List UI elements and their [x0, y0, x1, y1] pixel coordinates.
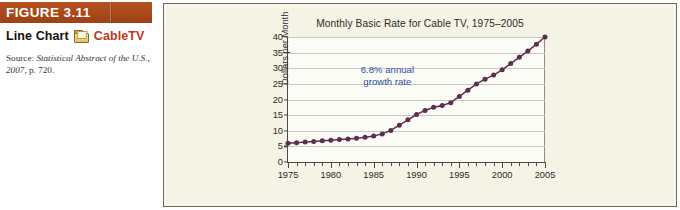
- data-point-marker: [328, 138, 333, 143]
- figure-screenshot: FIGURE 3.11 Line Chart CableTV Source: S…: [0, 0, 680, 210]
- chart-panel: Monthly Basic Rate for Cable TV, 1975–20…: [163, 3, 677, 207]
- y-tick-label: 30: [273, 63, 283, 73]
- x-tick-minor: [451, 162, 452, 166]
- x-tick-major: [374, 162, 375, 168]
- chart-kind-row: Line Chart CableTV: [6, 29, 145, 43]
- x-tick-minor: [314, 162, 315, 166]
- x-tick-minor: [511, 162, 512, 166]
- source-page: p. 720.: [27, 65, 55, 75]
- data-point-marker: [414, 112, 419, 117]
- data-point-marker: [303, 140, 308, 145]
- data-point-marker: [354, 136, 359, 141]
- x-tick-label: 2005: [535, 170, 556, 180]
- y-tick-label: 25: [273, 79, 283, 89]
- x-tick-minor: [357, 162, 358, 166]
- x-tick-minor: [322, 162, 323, 166]
- series-line: [288, 37, 545, 143]
- data-point-marker: [311, 139, 316, 144]
- data-point-marker: [440, 103, 445, 108]
- folder-icon[interactable]: [74, 30, 89, 42]
- figure-number-label: FIGURE 3.11: [6, 5, 91, 20]
- chart-kind-label: Line Chart: [6, 29, 69, 43]
- data-point-marker: [320, 138, 325, 143]
- y-tick-label: 20: [273, 95, 283, 105]
- data-point-marker: [405, 117, 410, 122]
- x-tick-major: [288, 162, 289, 168]
- x-tick-minor: [519, 162, 520, 166]
- data-point-marker: [423, 108, 428, 113]
- source-prefix: Source:: [6, 53, 36, 63]
- x-tick-label: 1975: [278, 170, 299, 180]
- x-tick-minor: [442, 162, 443, 166]
- x-tick-major: [459, 162, 460, 168]
- x-tick-minor: [536, 162, 537, 166]
- y-tick-label: 0: [278, 157, 283, 167]
- series-layer: [288, 37, 545, 162]
- data-point-marker: [380, 131, 385, 136]
- x-tick-major: [331, 162, 332, 168]
- x-tick-label: 1990: [406, 170, 427, 180]
- source-note: Source: Statistical Abstract of the U.S.…: [6, 53, 156, 76]
- x-tick-minor: [382, 162, 383, 166]
- y-tick-label: 10: [273, 126, 283, 136]
- x-tick-minor: [476, 162, 477, 166]
- x-tick-minor: [348, 162, 349, 166]
- data-point-marker: [500, 67, 505, 72]
- x-tick-minor: [305, 162, 306, 166]
- x-tick-label: 1995: [449, 170, 470, 180]
- bar-divider-shadow: [111, 2, 112, 23]
- data-point-marker: [345, 136, 350, 141]
- data-point-marker: [491, 73, 496, 78]
- x-tick-major: [502, 162, 503, 168]
- x-tick-label: 2000: [492, 170, 513, 180]
- x-tick-minor: [528, 162, 529, 166]
- caption-column: FIGURE 3.11 Line Chart CableTV Source: S…: [0, 0, 160, 210]
- figure-number-bar: FIGURE 3.11: [0, 2, 152, 23]
- annotation-line-2: growth rate: [361, 76, 414, 88]
- plot-area: Dollars per Month 0510152025303540197519…: [287, 37, 545, 162]
- data-point-marker: [508, 61, 513, 66]
- chart-title: Monthly Basic Rate for Cable TV, 1975–20…: [164, 18, 676, 29]
- data-point-marker: [371, 134, 376, 139]
- annotation-line-1: 6.8% annual: [361, 64, 414, 76]
- data-point-marker: [448, 100, 453, 105]
- y-tick-label: 35: [273, 48, 283, 58]
- data-point-marker: [431, 105, 436, 110]
- folder-icon-sheet: [76, 31, 87, 39]
- x-tick-label: 1985: [363, 170, 384, 180]
- x-tick-minor: [391, 162, 392, 166]
- x-tick-minor: [408, 162, 409, 166]
- x-tick-minor: [339, 162, 340, 166]
- data-point-marker: [534, 42, 539, 47]
- data-point-marker: [286, 141, 291, 146]
- data-point-marker: [483, 77, 488, 82]
- y-tick-label: 40: [273, 32, 283, 42]
- data-point-marker: [337, 137, 342, 142]
- data-point-marker: [388, 128, 393, 133]
- x-tick-minor: [297, 162, 298, 166]
- y-tick-label: 5: [278, 141, 283, 151]
- x-tick-minor: [434, 162, 435, 166]
- data-point-marker: [543, 35, 548, 40]
- x-tick-label: 1980: [320, 170, 341, 180]
- data-point-marker: [363, 135, 368, 140]
- data-point-marker: [517, 55, 522, 60]
- data-point-marker: [294, 140, 299, 145]
- x-tick-minor: [485, 162, 486, 166]
- x-tick-minor: [494, 162, 495, 166]
- data-point-marker: [457, 94, 462, 99]
- x-tick-major: [545, 162, 546, 168]
- x-tick-minor: [468, 162, 469, 166]
- data-point-marker: [474, 81, 479, 86]
- growth-rate-annotation: 6.8% annualgrowth rate: [361, 64, 414, 88]
- data-point-marker: [525, 49, 530, 54]
- data-point-marker: [465, 88, 470, 93]
- x-tick-minor: [425, 162, 426, 166]
- y-tick-label: 15: [273, 110, 283, 120]
- x-tick-major: [417, 162, 418, 168]
- x-tick-minor: [365, 162, 366, 166]
- data-point-marker: [397, 123, 402, 128]
- dataset-name-label[interactable]: CableTV: [94, 29, 145, 43]
- x-tick-minor: [399, 162, 400, 166]
